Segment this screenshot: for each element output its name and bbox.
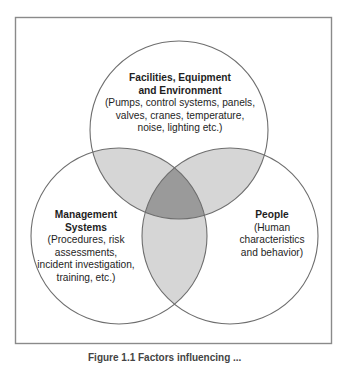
label-facilities-title-2: and Environment [92, 85, 268, 98]
label-people-desc-3: and behavior) [230, 247, 314, 260]
label-people-desc-2: characteristics [230, 234, 314, 247]
label-people-title: People [230, 209, 314, 222]
figure-caption: Figure 1.1 Factors influencing ... [88, 352, 241, 363]
label-facilities-desc-1: (Pumps, control systems, panels, [92, 97, 268, 110]
label-facilities-desc-3: noise, lighting etc.) [92, 122, 268, 135]
label-management-desc-3: incident investigation, [24, 259, 148, 272]
label-management-desc-1: (Procedures, risk [24, 234, 148, 247]
label-management-title-1: Management [24, 209, 148, 222]
label-management-desc-2: assessments, [24, 247, 148, 260]
label-management-desc-4: training, etc.) [24, 272, 148, 285]
label-management: Management Systems (Procedures, risk ass… [24, 209, 148, 285]
label-people-desc-1: (Human [230, 222, 314, 235]
label-facilities-desc-2: valves, cranes, temperature, [92, 110, 268, 123]
label-facilities-title-1: Facilities, Equipment [92, 72, 268, 85]
label-facilities: Facilities, Equipment and Environment (P… [92, 72, 268, 135]
label-people: People (Human characteristics and behavi… [230, 209, 314, 259]
label-management-title-2: Systems [24, 222, 148, 235]
